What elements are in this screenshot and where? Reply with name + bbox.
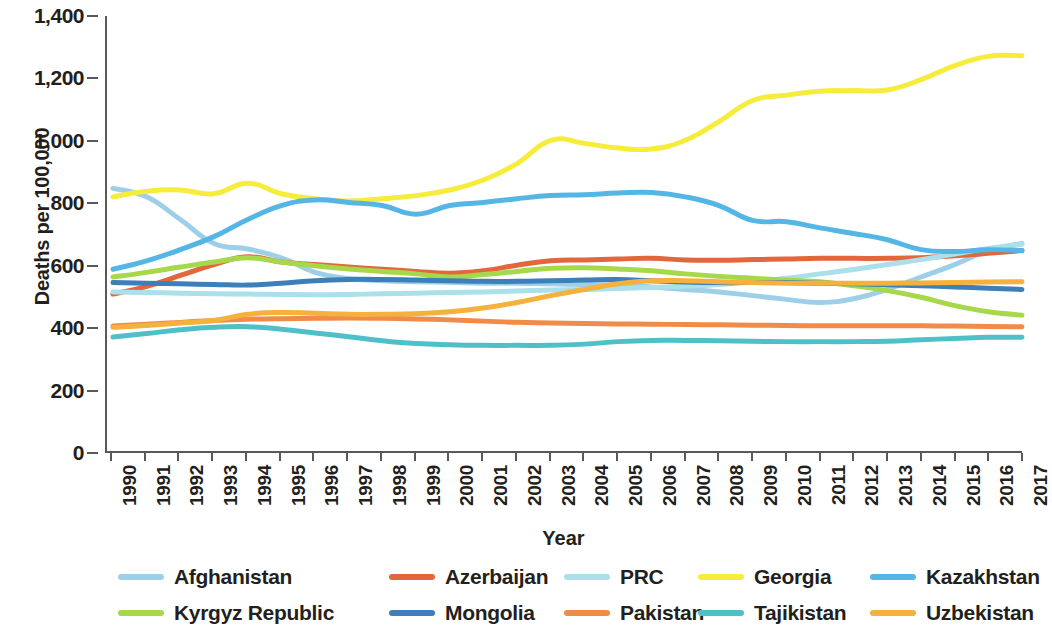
legend-label: Georgia: [754, 565, 831, 589]
legend-label: Azerbaijan: [445, 565, 548, 589]
series-line: [113, 327, 1022, 346]
plot-area: [105, 16, 1022, 453]
x-tick-label: 2012: [861, 465, 883, 506]
x-tick-label: 2014: [929, 465, 951, 506]
x-tick-label: 1999: [423, 465, 445, 506]
x-tick-mark: [447, 453, 449, 461]
legend-item[interactable]: Kyrgyz Republic: [118, 596, 334, 630]
x-tick-mark: [279, 453, 281, 461]
x-tick-mark: [886, 453, 888, 461]
legend-item[interactable]: PRC: [564, 560, 663, 594]
x-tick-mark: [616, 453, 618, 461]
y-tick-mark: [87, 202, 98, 204]
x-tick-label: 1993: [220, 465, 242, 506]
y-tick-label: 1,200: [34, 66, 84, 90]
legend-item[interactable]: Tajikistan: [698, 596, 846, 630]
y-tick-label: 200: [50, 379, 84, 403]
x-tick-mark: [110, 453, 112, 461]
x-tick-mark: [717, 453, 719, 461]
legend-row: Kyrgyz RepublicMongoliaPakistanTajikista…: [118, 596, 1029, 630]
legend-item[interactable]: Pakistan: [564, 596, 704, 630]
x-tick-label: 1994: [254, 465, 276, 506]
x-tick-label: 2006: [659, 465, 681, 506]
y-tick-label: 1,000: [34, 129, 84, 153]
x-tick-label: 1996: [321, 465, 343, 506]
x-tick-mark: [582, 453, 584, 461]
legend-label: Kazakhstan: [926, 565, 1040, 589]
y-tick-label: 1,400: [34, 4, 84, 28]
y-tick-mark: [87, 452, 98, 454]
x-tick-mark: [211, 453, 213, 461]
x-tick-mark: [177, 453, 179, 461]
x-tick-label: 1992: [186, 465, 208, 506]
y-axis-tick-labels: 02004006008001,0001,2001,400: [0, 0, 105, 470]
legend-color-swatch: [564, 610, 610, 616]
x-tick-mark: [245, 453, 247, 461]
x-tick-label: 2015: [963, 465, 985, 506]
x-tick-label: 1997: [355, 465, 377, 506]
legend-item[interactable]: Azerbaijan: [389, 560, 548, 594]
x-tick-mark: [312, 453, 314, 461]
legend-label: Afghanistan: [174, 565, 292, 589]
legend-item[interactable]: Kazakhstan: [870, 560, 1040, 594]
legend-item[interactable]: Georgia: [698, 560, 831, 594]
y-tick-label: 800: [50, 191, 84, 215]
x-tick-mark: [751, 453, 753, 461]
y-tick-mark: [87, 265, 98, 267]
x-tick-label: 2005: [625, 465, 647, 506]
x-tick-label: 2009: [760, 465, 782, 506]
series-canvas: [107, 16, 1022, 451]
legend-row: AfghanistanAzerbaijanPRCGeorgiaKazakhsta…: [118, 560, 1029, 594]
x-tick-mark: [954, 453, 956, 461]
legend-color-swatch: [118, 574, 164, 580]
y-tick-mark: [87, 327, 98, 329]
x-tick-mark: [987, 453, 989, 461]
x-tick-mark: [1021, 453, 1023, 461]
y-tick-label: 400: [50, 316, 84, 340]
x-tick-mark: [920, 453, 922, 461]
legend-color-swatch: [698, 610, 744, 616]
y-tick-mark: [87, 390, 98, 392]
legend-color-swatch: [389, 574, 435, 580]
x-tick-label: 1990: [119, 465, 141, 506]
legend-label: Tajikistan: [754, 601, 846, 625]
x-tick-label: 1995: [288, 465, 310, 506]
legend-item[interactable]: Mongolia: [389, 596, 535, 630]
x-tick-label: 1998: [389, 465, 411, 506]
x-axis-tick-labels: 1990199119921993199419951996199719981999…: [105, 453, 1022, 533]
legend-item[interactable]: Afghanistan: [118, 560, 292, 594]
x-tick-mark: [785, 453, 787, 461]
series-line: [113, 55, 1022, 201]
x-tick-label: 2013: [895, 465, 917, 506]
x-tick-label: 2017: [1030, 465, 1052, 506]
x-tick-mark: [650, 453, 652, 461]
y-tick-label: 0: [73, 441, 84, 465]
x-tick-label: 2007: [693, 465, 715, 506]
x-tick-mark: [684, 453, 686, 461]
x-tick-mark: [481, 453, 483, 461]
legend-color-swatch: [389, 610, 435, 616]
x-tick-label: 2002: [524, 465, 546, 506]
x-tick-label: 2010: [794, 465, 816, 506]
legend-label: Kyrgyz Republic: [174, 601, 334, 625]
x-tick-label: 2004: [591, 465, 613, 506]
x-tick-label: 2016: [996, 465, 1018, 506]
y-tick-label: 600: [50, 254, 84, 278]
legend-item[interactable]: Uzbekistan: [870, 596, 1034, 630]
x-tick-mark: [346, 453, 348, 461]
x-axis-title: Year: [105, 527, 1022, 550]
x-tick-label: 2003: [558, 465, 580, 506]
x-tick-label: 2011: [828, 465, 850, 505]
x-tick-mark: [819, 453, 821, 461]
x-tick-mark: [380, 453, 382, 461]
x-tick-mark: [852, 453, 854, 461]
x-tick-label: 1991: [153, 465, 175, 506]
x-tick-label: 2001: [490, 465, 512, 506]
legend-color-swatch: [118, 610, 164, 616]
legend-label: Pakistan: [620, 601, 704, 625]
y-tick-mark: [87, 15, 98, 17]
legend-label: Mongolia: [445, 601, 535, 625]
legend-color-swatch: [564, 574, 610, 580]
x-tick-label: 2000: [456, 465, 478, 506]
legend: AfghanistanAzerbaijanPRCGeorgiaKazakhsta…: [118, 560, 1029, 632]
